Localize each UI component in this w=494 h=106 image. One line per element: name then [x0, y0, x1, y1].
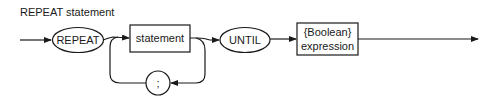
boolean-label-line1: {Boolean} [304, 26, 352, 38]
syntax-diagram: REPEAT statement ; UNTIL {Boolean} expre… [0, 0, 494, 106]
until-label: UNTIL [229, 34, 261, 46]
repeat-label: REPEAT [56, 34, 99, 46]
semicolon-label: ; [156, 77, 159, 89]
loop-right-path [171, 38, 205, 83]
boolean-label-line2: expression [301, 40, 354, 52]
statement-to-until-line [190, 38, 219, 40]
statement-label: statement [136, 32, 184, 44]
